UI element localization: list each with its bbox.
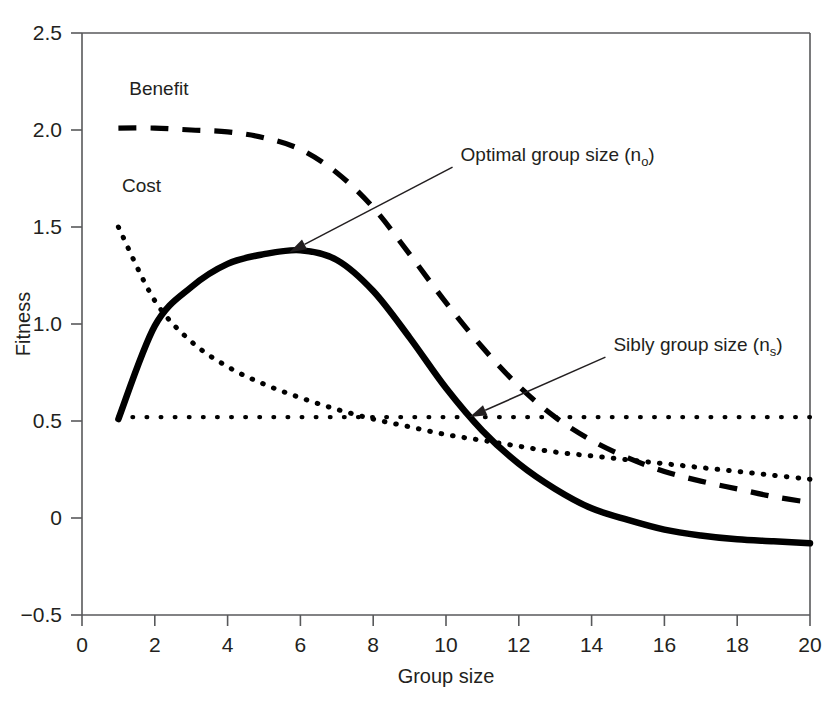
x-tick-label: 4 [222,633,234,656]
x-tick-label: 18 [726,633,749,656]
annotation-label-optimal-group-size: Optimal group size (no) [461,144,655,169]
x-axis-tick-labels: 02468101214161820 [76,633,822,656]
x-axis-title: Group size [398,665,495,687]
x-tick-label: 2 [149,633,161,656]
x-tick-label: 12 [507,633,530,656]
y-tick-label: 1.5 [33,215,62,238]
annotation-leader-line [485,357,605,410]
x-tick-label: 8 [367,633,379,656]
y-axis-ticks [71,33,82,615]
chart-canvas: 2.52.01.51.00.50−0.5 02468101214161820 F… [0,0,838,702]
series-label-cost: Cost [122,175,162,196]
annotation-arrow-head [470,405,488,417]
x-axis-ticks [82,615,810,626]
plot-frame [82,33,810,615]
series-inline-labels: BenefitCost [122,78,189,196]
curve-benefit [118,128,810,503]
y-axis-title: Fitness [12,292,34,356]
x-tick-label: 20 [798,633,821,656]
series-label-benefit: Benefit [129,78,189,99]
x-tick-label: 0 [76,633,88,656]
y-tick-label: 0 [50,506,62,529]
curve-net-benefit [118,250,810,543]
y-tick-label: −0.5 [21,603,62,626]
annotation-leader-line [305,167,453,244]
x-tick-label: 16 [653,633,676,656]
x-tick-label: 10 [434,633,457,656]
fitness-vs-group-size-chart: 2.52.01.51.00.50−0.5 02468101214161820 F… [0,0,838,702]
y-tick-label: 2.5 [33,21,62,44]
y-tick-label: 0.5 [33,409,62,432]
x-tick-label: 14 [580,633,604,656]
y-tick-label: 1.0 [33,312,62,335]
annotation-label-sibly-group-size: Sibly group size (ns) [613,334,782,359]
y-tick-label: 2.0 [33,118,62,141]
x-tick-label: 6 [295,633,307,656]
